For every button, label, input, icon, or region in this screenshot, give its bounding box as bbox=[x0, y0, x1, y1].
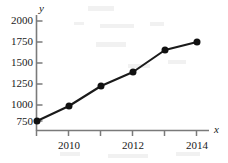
data-point bbox=[194, 39, 201, 46]
x-tick-label-2014: 2014 bbox=[177, 140, 217, 151]
y-tick-label-1750: 1750 bbox=[0, 36, 33, 47]
y-tick-label-750: 750 bbox=[0, 116, 33, 127]
data-point bbox=[98, 83, 105, 90]
y-tick-label-1250: 1250 bbox=[0, 78, 33, 89]
y-tick-label-1000: 1000 bbox=[0, 99, 33, 110]
x-tick-label-2012: 2012 bbox=[113, 140, 153, 151]
x-tick-label-2010: 2010 bbox=[49, 140, 89, 151]
data-line bbox=[37, 42, 197, 121]
data-point bbox=[162, 47, 169, 54]
y-axis-ticks bbox=[37, 21, 43, 121]
line-chart-figure: 2000 1750 1500 1250 1000 750 2010 2012 2… bbox=[0, 0, 228, 163]
data-point bbox=[66, 103, 73, 110]
data-point bbox=[34, 118, 41, 125]
x-axis-name: x bbox=[214, 124, 219, 135]
y-tick-label-1500: 1500 bbox=[0, 57, 33, 68]
y-tick-label-2000: 2000 bbox=[0, 15, 33, 26]
y-axis-name: y bbox=[39, 3, 44, 14]
x-axis-ticks bbox=[37, 131, 197, 137]
data-point bbox=[130, 69, 137, 76]
